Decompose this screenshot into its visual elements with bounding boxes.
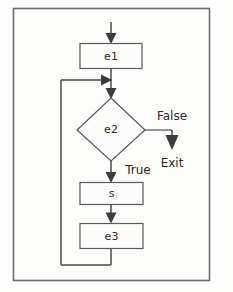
false-label: False [157, 109, 187, 123]
node-e3-label: e3 [105, 230, 119, 243]
node-e2-label: e2 [104, 123, 118, 136]
arrowhead-entry-to-e1 [106, 33, 117, 44]
arrowhead-s-to-e3 [106, 213, 117, 224]
flowchart-canvas: e1 e2 False Exit True s e3 [0, 0, 233, 292]
node-s-label: s [109, 187, 115, 200]
arrowhead-e2-true-to-s [106, 172, 117, 183]
exit-label: Exit [161, 156, 184, 170]
arrowhead-e2-false-exit [166, 135, 179, 150]
true-label: True [124, 163, 151, 177]
flowchart-svg: e1 e2 False Exit True s e3 [0, 0, 233, 292]
node-e1-label: e1 [104, 50, 118, 63]
